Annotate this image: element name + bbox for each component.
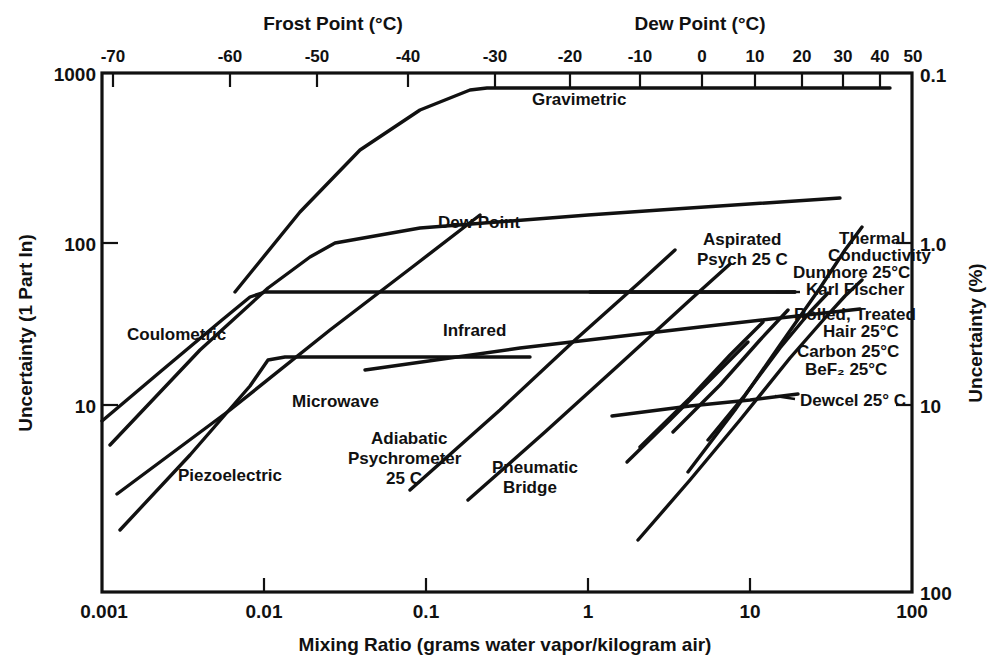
x-axis-title: Mixing Ratio (grams water vapor/kilogram…	[299, 634, 712, 655]
top-tick-label: 40	[871, 47, 890, 66]
top-tick-label: -30	[483, 47, 508, 66]
top-tick-label: -40	[396, 47, 421, 66]
x-tick-label: 0.01	[246, 601, 283, 622]
top-tick-label: 50	[904, 47, 923, 66]
y-tick-label: 10	[75, 396, 96, 417]
annotation-aspirated-line1: Aspirated	[703, 230, 781, 249]
x-tick-label: 0.001	[80, 601, 128, 622]
annotation-gravimetric: Gravimetric	[532, 90, 627, 109]
y2-tick-label: 0.1	[920, 65, 947, 86]
curve-dewcel	[612, 394, 798, 416]
frost-point-axis-title: Frost Point (°C)	[263, 13, 403, 34]
annotation-aspirated-line2: Psych 25 C	[697, 250, 788, 269]
figure-root: Frost Point (°C) Dew Point (°C) -70 -60 …	[0, 0, 1002, 662]
top-tick-label: -70	[101, 47, 126, 66]
left-axis-ticks	[102, 243, 118, 405]
top-axis-tick-labels: -70 -60 -50 -40 -30 -20 -10 0 10 20 30 4…	[101, 47, 923, 66]
annotation-dewcel: Dewcel 25° C	[800, 391, 906, 410]
annotation-dew-point: Dew Point	[438, 213, 521, 232]
annotation-adiabatic-line2: Psychrometer	[348, 449, 462, 468]
x-tick-label: 100	[896, 601, 928, 622]
top-axis-ticks	[113, 73, 880, 87]
top-tick-label: 20	[793, 47, 812, 66]
top-tick-label: 30	[834, 47, 853, 66]
top-tick-label: 10	[746, 47, 765, 66]
curve-gravimetric	[235, 88, 890, 292]
curve-microwave	[120, 357, 530, 530]
curve-carbon	[640, 322, 763, 447]
annotation-microwave: Microwave	[292, 392, 379, 411]
y-tick-label: 100	[64, 234, 96, 255]
dew-point-axis-title: Dew Point (°C)	[634, 13, 765, 34]
top-tick-label: -50	[305, 47, 330, 66]
top-tick-label: -20	[558, 47, 583, 66]
annotation-bef2: BeF₂ 25°C	[805, 360, 887, 379]
annotation-pneumatic-line2: Bridge	[503, 478, 557, 497]
right-axis-tick-labels: 0.1 1.0 10 100	[920, 65, 952, 604]
x-tick-label: 0.1	[413, 601, 440, 622]
annotation-rolled-hair-line2: Hair 25°C	[823, 322, 899, 341]
y2-axis-title: Uncertainty (%)	[965, 263, 986, 402]
annotation-coulometric: Coulometric	[127, 325, 226, 344]
bottom-axis-ticks	[264, 578, 750, 592]
y-axis-title: Uncertainty (1 Part In)	[15, 234, 36, 431]
top-tick-label: -10	[628, 47, 653, 66]
left-axis-tick-labels: 1000 100 10	[54, 64, 96, 417]
top-tick-label: -60	[218, 47, 243, 66]
x-tick-label: 1	[583, 601, 594, 622]
annotation-piezoelectric: Piezoelectric	[178, 466, 282, 485]
annotation-adiabatic-line1: Adiabatic	[371, 429, 448, 448]
top-tick-label: 0	[697, 47, 706, 66]
bottom-axis-tick-labels: 0.001 0.01 0.1 1 10 100	[80, 601, 928, 622]
annotation-pneumatic-line1: Pneumatic	[492, 458, 578, 477]
x-tick-label: 10	[739, 601, 760, 622]
annotation-infrared: Infrared	[443, 321, 506, 340]
annotation-adiabatic-line3: 25 C	[386, 469, 422, 488]
annotation-carbon: Carbon 25°C	[797, 342, 899, 361]
y2-tick-label: 10	[920, 396, 941, 417]
annotation-karl-fischer: Karl Fischer	[806, 280, 905, 299]
chart-svg: Frost Point (°C) Dew Point (°C) -70 -60 …	[0, 0, 1002, 662]
y-tick-label: 1000	[54, 64, 96, 85]
